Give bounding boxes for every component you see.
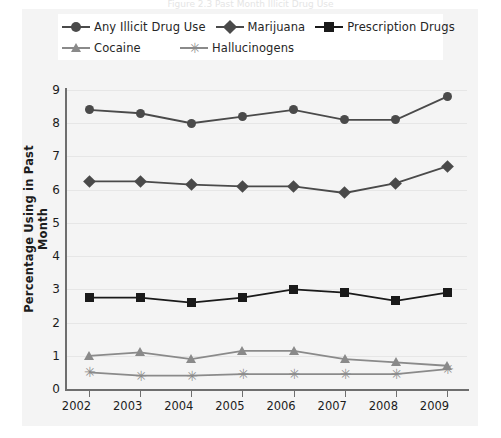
x-tick-label: 2008 [358, 399, 408, 413]
x-tick-label: 2002 [52, 399, 102, 413]
legend-row: Cocaine✳Hallucinogens [62, 37, 439, 58]
x-tick-mark [140, 391, 141, 397]
circle-data-point [71, 22, 81, 32]
circle-data-point [85, 105, 94, 114]
gridline [67, 356, 467, 357]
star-data-point: ✳ [237, 369, 247, 379]
diamond-marker [216, 21, 244, 33]
triangle-data-point [186, 354, 196, 363]
legend-label: Any Illicit Drug Use [94, 20, 206, 34]
y-tick-label: 9 [34, 83, 60, 97]
square-data-point [136, 293, 145, 302]
square-data-point [238, 293, 247, 302]
square-marker [315, 21, 343, 33]
square-data-point [391, 296, 400, 305]
x-axis-line [65, 389, 469, 391]
star-marker: ✳ [180, 42, 208, 54]
y-axis-title: Percentage Using in Past Month [22, 129, 50, 329]
gridline [67, 90, 467, 91]
star-data-point: ✳ [442, 364, 452, 374]
star-data-point: ✳ [391, 369, 401, 379]
circle-data-point [443, 92, 452, 101]
x-tick-mark [447, 391, 448, 397]
square-data-point [443, 288, 452, 297]
x-tick-label: 2009 [410, 399, 460, 413]
figure-caption-fragment: Figure 2.3 Past Month Illicit Drug Use [0, 0, 501, 9]
x-tick-label: 2003 [103, 399, 153, 413]
legend-item-prescription-drugs[interactable]: Prescription Drugs [315, 20, 464, 34]
star-data-point: ✳ [189, 43, 199, 53]
chart-figure: Figure 2.3 Past Month Illicit Drug Use 0… [0, 0, 501, 438]
gridline [67, 123, 467, 124]
y-tick-label: 1 [34, 349, 60, 363]
square-data-point [187, 298, 196, 307]
triangle-data-point [340, 354, 350, 363]
x-tick-mark [191, 391, 192, 397]
gridline [67, 323, 467, 324]
triangle-data-point [135, 347, 145, 356]
circle-marker [62, 21, 90, 33]
star-data-point: ✳ [84, 367, 94, 377]
y-axis-line [65, 88, 67, 391]
chart-legend: Any Illicit Drug UseMarijuanaPrescriptio… [58, 14, 443, 60]
gridline [67, 256, 467, 257]
square-data-point [289, 285, 298, 294]
triangle-data-point [237, 346, 247, 355]
legend-label: Cocaine [94, 41, 141, 55]
triangle-marker [62, 42, 90, 54]
diamond-data-point [223, 19, 237, 33]
triangle-data-point [84, 351, 94, 360]
x-tick-label: 2006 [256, 399, 306, 413]
star-data-point: ✳ [186, 371, 196, 381]
gridline [67, 223, 467, 224]
legend-label: Hallucinogens [212, 41, 294, 55]
x-tick-label: 2004 [154, 399, 204, 413]
legend-item-any-illicit-drug-use[interactable]: Any Illicit Drug Use [62, 20, 216, 34]
circle-data-point [187, 119, 196, 128]
legend-row: Any Illicit Drug UseMarijuanaPrescriptio… [62, 16, 439, 37]
x-tick-mark [345, 391, 346, 397]
gridline [67, 156, 467, 157]
legend-item-marijuana[interactable]: Marijuana [216, 20, 316, 34]
legend-item-cocaine[interactable]: Cocaine [62, 41, 180, 55]
gridline [67, 190, 467, 191]
x-tick-mark [89, 391, 90, 397]
triangle-data-point [71, 43, 81, 52]
legend-label: Prescription Drugs [347, 20, 454, 34]
x-tick-mark [396, 391, 397, 397]
circle-data-point [136, 109, 145, 118]
triangle-data-point [289, 346, 299, 355]
x-tick-label: 2005 [205, 399, 255, 413]
star-data-point: ✳ [289, 369, 299, 379]
square-data-point [324, 22, 334, 32]
gridline [67, 289, 467, 290]
y-tick-label: 0 [34, 382, 60, 396]
legend-item-hallucinogens[interactable]: ✳Hallucinogens [180, 41, 304, 55]
x-tick-label: 2007 [307, 399, 357, 413]
x-tick-mark [242, 391, 243, 397]
square-data-point [340, 288, 349, 297]
x-tick-mark [294, 391, 295, 397]
square-data-point [85, 293, 94, 302]
star-data-point: ✳ [340, 369, 350, 379]
star-data-point: ✳ [135, 371, 145, 381]
circle-data-point [238, 112, 247, 121]
legend-label: Marijuana [248, 20, 306, 34]
